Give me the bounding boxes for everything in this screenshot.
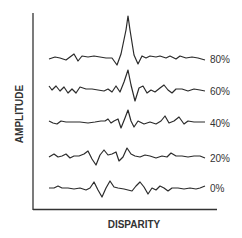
- trace-60pct: [49, 70, 205, 101]
- series-label-0: 0%: [210, 183, 225, 194]
- x-axis-label: DISPARITY: [108, 219, 161, 230]
- series-label-20: 20%: [210, 153, 230, 164]
- series-label-80: 80%: [210, 54, 230, 65]
- series-label-40: 40%: [210, 118, 230, 129]
- trace-20pct: [49, 148, 205, 165]
- disparity-amplitude-chart: 80% 60% 40% 20% 0% DISPARITY AMPLITUDE: [0, 0, 242, 238]
- trace-group: [49, 16, 205, 197]
- trace-80pct: [49, 16, 205, 65]
- trace-0pct: [49, 181, 205, 197]
- y-axis-label: AMPLITUDE: [14, 85, 25, 144]
- series-label-60: 60%: [210, 86, 230, 97]
- trace-40pct: [49, 110, 205, 128]
